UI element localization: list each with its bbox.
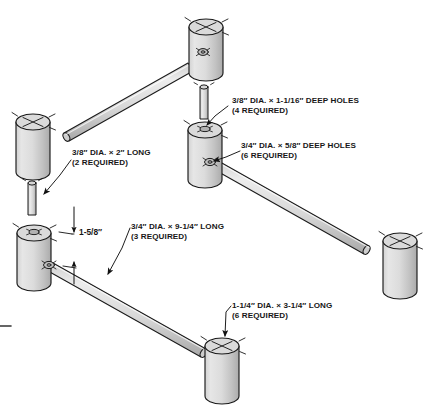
post-right [379,232,423,300]
post-left-upper [12,113,56,181]
post-left-lower [13,224,57,292]
dimension-label-1-5-8: 1-5/8″ [79,227,102,237]
callout-line-2: (6 REQUIRED) [241,151,356,161]
leader-deep-holes-38 [207,106,228,125]
callout-dowel-34-long: 3/4″ DIA. × 9-1/4″ LONG (3 REQUIRED) [131,222,224,243]
dowel-right [208,158,371,256]
callout-line-2: (2 REQUIRED) [72,158,151,168]
callout-line-1: 3/8″ DIA. × 2″ LONG [72,148,151,158]
peg-top [194,83,214,119]
post-bottom [201,337,246,405]
assembly-diagram: 3/8″ DIA. × 1-1/16″ DEEP HOLES (4 REQUIR… [0,0,427,406]
callout-post-114-long: 1-1/4″ DIA. × 3-1/4″ LONG (6 REQUIRED) [232,301,332,322]
callout-line-1: 1-1/4″ DIA. × 3-1/4″ LONG [232,301,332,311]
side-hole [42,261,56,269]
callout-line-1: 3/8″ DIA. × 1-1/16″ DEEP HOLES [232,96,359,106]
callout-line-1: 3/4″ DIA. × 9-1/4″ LONG [131,222,224,232]
peg-left [22,179,42,215]
side-hole [203,158,217,166]
post-top [185,18,229,82]
leader-dowel-34 [108,228,130,274]
callout-line-2: (6 REQUIRED) [232,311,332,321]
dowel-lower-left [48,263,208,359]
callout-line-1: 3/4″ DIA. × 5/8″ DEEP HOLES [241,141,356,151]
callout-line-2: (3 REQUIRED) [131,232,224,242]
callout-deep-holes-38: 3/8″ DIA. × 1-1/16″ DEEP HOLES (4 REQUIR… [232,96,359,117]
top-hole [27,229,42,235]
side-hole [196,48,209,55]
callout-deep-holes-34: 3/4″ DIA. × 5/8″ DEEP HOLES (6 REQUIRED) [241,141,356,162]
callout-dowel-38-long: 3/8″ DIA. × 2″ LONG (2 REQUIRED) [72,148,151,169]
callout-line-2: (4 REQUIRED) [232,106,359,116]
dowel-upper-left [62,63,193,142]
post-mid-right [184,121,228,189]
diagram-canvas [0,0,427,406]
leader-post-114 [225,306,231,336]
top-hole [198,126,213,132]
